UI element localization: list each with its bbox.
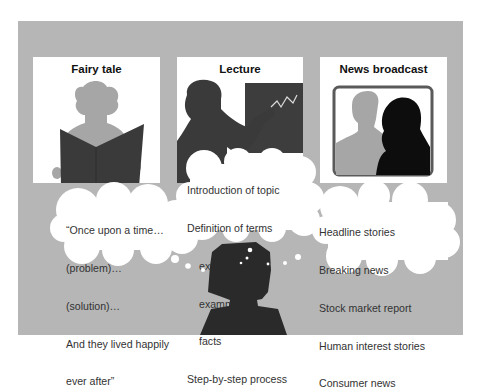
cloud-line: Step-by-step process	[187, 373, 287, 386]
cloud-line: ever after”	[66, 375, 169, 388]
cloud-line: Consumer news	[319, 377, 425, 390]
